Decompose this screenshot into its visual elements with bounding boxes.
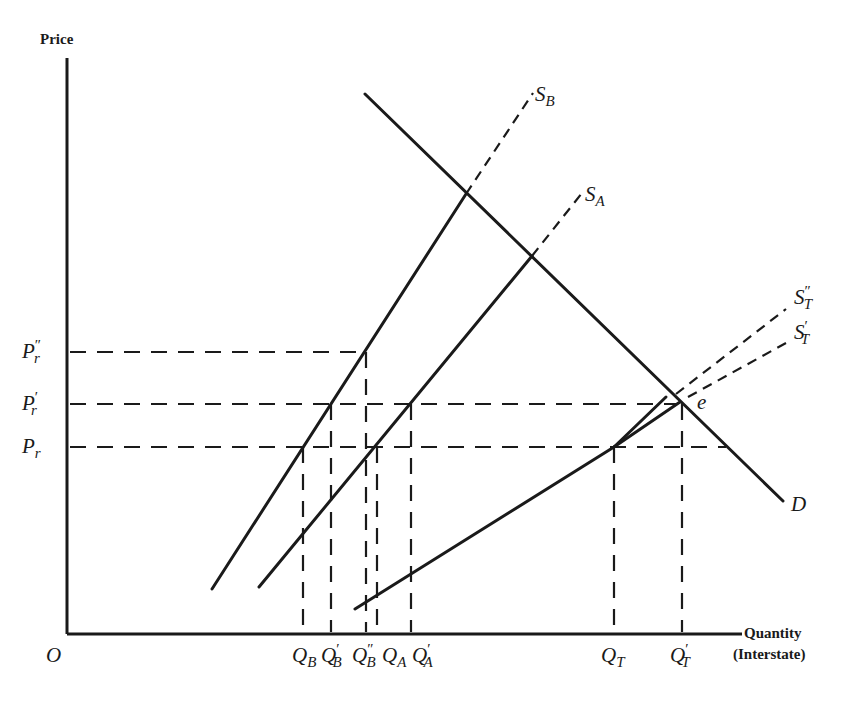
quantity-label-qb2: Q″B [352, 641, 376, 670]
market-diagram: Price Quantity (Interstate) O P″rP′rPrQB… [0, 0, 853, 701]
curve-label-sb: SB [535, 82, 555, 109]
curve-label-st1: S′T [794, 318, 811, 347]
x-axis-subtitle: (Interstate) [733, 646, 805, 663]
supply-curve-st-base [355, 447, 614, 609]
price-label-pr_double: P″r [21, 337, 41, 366]
quantity-label-qt1: Q′T [670, 641, 691, 670]
price-label-pr_single: P′r [21, 389, 38, 418]
price-label-pr: Pr [21, 434, 41, 461]
diagram-marks: P″rP′rPrQBQ′BQ″BQAQ′AQTQ′TSBSAS″TS′TDe [21, 58, 814, 670]
quantity-label-qa1: Q′A [412, 641, 433, 670]
curve-label-st2: S″T [794, 283, 814, 312]
y-axis-title: Price [40, 31, 74, 47]
equilibrium-label: e [697, 390, 706, 414]
quantity-label-qt: QT [601, 643, 626, 670]
demand-curve [365, 94, 783, 501]
quantity-label-qa: QA [382, 643, 407, 670]
origin-label: O [46, 643, 61, 667]
supply-curve-st1 [614, 402, 680, 447]
curve-label-d: D [790, 492, 806, 516]
quantity-label-qb: QB [292, 643, 316, 670]
curve-label-sa: SA [585, 182, 606, 209]
supply-curve-sb [212, 194, 466, 589]
supply-curve-sa-extension [532, 193, 582, 256]
quantity-label-qb1: Q′B [321, 641, 342, 670]
x-axis-title: Quantity [744, 625, 802, 641]
supply-curve-sb-extension [466, 93, 533, 194]
supply-curve-st1-extension [688, 343, 786, 397]
